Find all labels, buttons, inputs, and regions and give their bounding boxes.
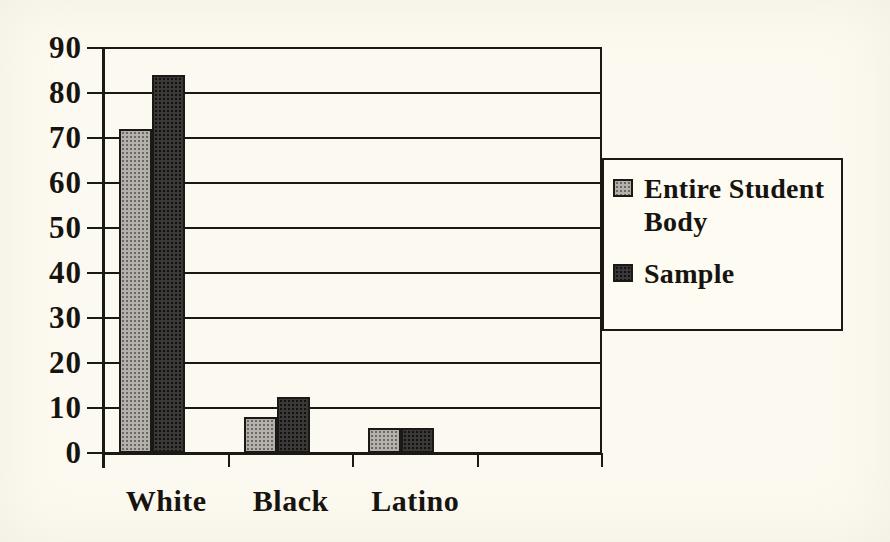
x-axis-tick-2	[352, 453, 354, 467]
entire-student-body-swatch-icon	[613, 179, 633, 197]
y-axis-line	[102, 47, 105, 468]
legend: Entire Student Body Sample	[602, 158, 843, 331]
bar-entire-student-body-white	[119, 129, 152, 453]
y-axis-label-80: 80	[20, 76, 82, 110]
legend-entry-entire-student-body: Entire Student Body	[613, 173, 833, 239]
bar-entire-student-body-black	[244, 417, 277, 453]
sample-swatch-icon	[613, 264, 633, 282]
bar-sample-white	[152, 75, 185, 453]
legend-entry-sample: Sample	[613, 258, 833, 291]
x-axis-label-white: White	[104, 484, 229, 518]
y-axis-label-20: 20	[20, 346, 82, 380]
y-axis-label-10: 10	[20, 391, 82, 425]
legend-label-sample: Sample	[644, 258, 833, 291]
x-axis-tick-3	[477, 453, 479, 467]
x-axis-tick-4	[601, 453, 603, 467]
y-axis-label-60: 60	[20, 166, 82, 200]
x-axis-label-latino: Latino	[353, 484, 478, 518]
x-axis-line	[104, 452, 602, 455]
legend-label-entire-student-body: Entire Student Body	[644, 173, 833, 239]
gridline-90	[104, 47, 602, 49]
y-axis-label-40: 40	[20, 256, 82, 290]
y-axis-label-70: 70	[20, 121, 82, 155]
y-axis-label-50: 50	[20, 211, 82, 245]
scanned-bar-chart-figure: 9080706050403020100WhiteBlackLatino Enti…	[0, 0, 890, 542]
bar-sample-black	[277, 397, 310, 453]
bar-sample-latino	[401, 428, 434, 453]
x-axis-label-black: Black	[229, 484, 354, 518]
y-axis-label-0: 0	[20, 436, 82, 470]
x-axis-tick-1	[228, 453, 230, 467]
bar-entire-student-body-latino	[368, 428, 401, 453]
y-axis-label-30: 30	[20, 301, 82, 335]
y-axis-label-90: 90	[20, 31, 82, 65]
